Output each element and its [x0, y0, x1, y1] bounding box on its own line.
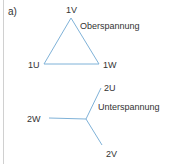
- vertex-label-1u: 1U: [28, 60, 40, 70]
- end-label-2w: 2W: [27, 114, 41, 124]
- caption-unterspannung: Unterspannung: [98, 102, 160, 112]
- wye-star: [49, 88, 102, 145]
- vertex-label-1w: 1W: [103, 60, 117, 70]
- end-label-2v: 2V: [106, 149, 117, 159]
- caption-oberspannung: Oberspannung: [80, 21, 140, 31]
- vertex-label-1v: 1V: [66, 5, 77, 15]
- end-label-2u: 2U: [104, 83, 116, 93]
